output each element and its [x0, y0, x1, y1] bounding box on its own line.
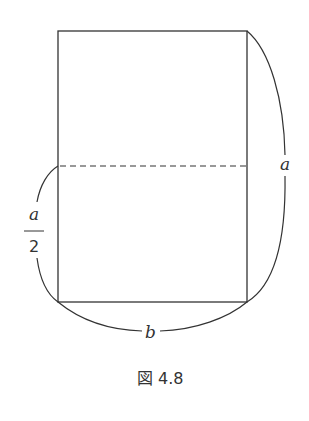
right-brace-upper — [247, 31, 285, 155]
left-brace-lower — [37, 258, 58, 302]
label-a-numerator: a — [29, 204, 39, 224]
label-b: b — [145, 322, 156, 342]
bottom-brace-left — [58, 302, 142, 331]
left-brace-upper — [37, 166, 58, 202]
figure-caption: 図 4.8 — [137, 369, 184, 388]
right-brace-lower — [247, 176, 285, 302]
figure-canvas: a a 2 b 図 4.8 — [0, 0, 309, 421]
bottom-brace-right — [160, 302, 247, 331]
label-denominator-2: 2 — [29, 237, 39, 256]
label-a-right: a — [280, 154, 290, 174]
